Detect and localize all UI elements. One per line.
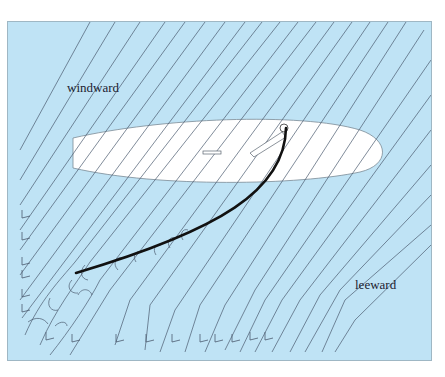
streamlines xyxy=(20,22,431,355)
windward-label: windward xyxy=(67,80,119,96)
leeward-label: leeward xyxy=(355,277,396,293)
centreboard-slot xyxy=(203,151,221,154)
hull xyxy=(73,119,383,182)
airflow-diagram xyxy=(0,0,445,377)
